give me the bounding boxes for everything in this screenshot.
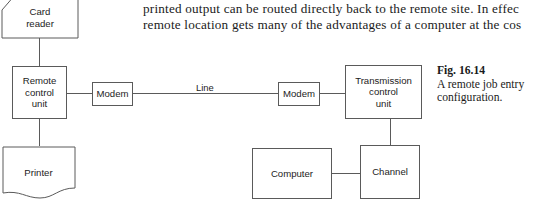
node-modem-right[interactable]: Modem <box>278 82 320 106</box>
node-transmission-control-unit-label-line3: unit <box>353 98 414 110</box>
body-text-line-1: printed output can be routed directly ba… <box>143 1 519 17</box>
line-label: Line <box>192 82 218 93</box>
figure-page: printed output can be routed directly ba… <box>0 0 554 203</box>
node-remote-control-unit-label-line1: Remote <box>21 75 59 87</box>
node-modem-right-label: Modem <box>281 88 317 100</box>
connector-remote-control-to-printer <box>39 118 40 146</box>
node-remote-control-unit-label-line2: control <box>21 87 59 99</box>
node-modem-left[interactable]: Modem <box>92 82 133 106</box>
body-text-line-2: remote location gets many of the advanta… <box>143 17 521 33</box>
figure-caption-text: A remote job entry configuration. <box>437 78 554 105</box>
connector-remote-control-to-modem-left <box>66 93 93 94</box>
node-printer-label: Printer <box>2 167 75 179</box>
node-printer[interactable]: Printer <box>2 146 82 203</box>
node-card-reader[interactable]: Card reader <box>1 0 79 39</box>
node-transmission-control-unit[interactable]: Transmission control unit <box>345 65 422 119</box>
connector-line-between-modems <box>132 93 279 94</box>
node-transmission-control-unit-label-line1: Transmission <box>353 75 414 87</box>
node-remote-control-unit-label: Remote control unit <box>21 75 59 110</box>
connector-card-reader-to-remote-control <box>39 38 40 67</box>
node-modem-left-label: Modem <box>95 88 131 100</box>
node-computer-label: Computer <box>269 168 315 180</box>
connector-transmission-control-to-channel <box>390 119 391 146</box>
node-computer[interactable]: Computer <box>252 148 332 199</box>
node-remote-control-unit[interactable]: Remote control unit <box>12 66 67 119</box>
figure-caption: Fig. 16.14 A remote job entry configurat… <box>437 64 554 105</box>
connector-modem-right-to-transmission-control <box>319 93 346 94</box>
node-card-reader-label-line2: reader <box>1 18 79 30</box>
node-remote-control-unit-label-line3: unit <box>21 98 59 110</box>
figure-number: Fig. 16.14 <box>437 64 554 78</box>
node-channel-label: Channel <box>370 166 410 178</box>
connector-channel-to-computer <box>331 173 361 174</box>
node-transmission-control-unit-label: Transmission control unit <box>353 75 414 110</box>
node-card-reader-label-line1: Card <box>1 6 79 18</box>
node-transmission-control-unit-label-line2: control <box>353 86 414 98</box>
node-channel[interactable]: Channel <box>360 145 420 199</box>
